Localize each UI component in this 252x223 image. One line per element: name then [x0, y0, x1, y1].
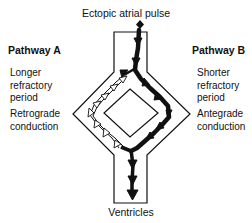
ectopic-origin-diamond-icon	[136, 20, 144, 29]
hollow-arrowhead-icon	[101, 93, 109, 100]
arrowhead-icon	[128, 176, 137, 185]
pathway-a-retrograde-arrows	[88, 76, 127, 148]
arrowhead-icon	[134, 38, 142, 46]
pathway-b-antegrade-arrows	[120, 30, 172, 200]
arrowhead-icon	[127, 190, 138, 200]
inner-diamond-island	[104, 89, 158, 137]
arrowhead-icon	[128, 160, 137, 169]
arrowhead-icon	[132, 58, 140, 66]
reentry-circuit-diagram	[0, 0, 252, 223]
hollow-arrowhead-icon	[119, 76, 127, 83]
arrowhead-icon	[142, 78, 150, 86]
diagram-footer-ventricles: Ventricles	[0, 206, 252, 218]
hollow-arrowhead-icon	[114, 140, 121, 148]
hollow-arrowhead-icon	[110, 84, 118, 91]
